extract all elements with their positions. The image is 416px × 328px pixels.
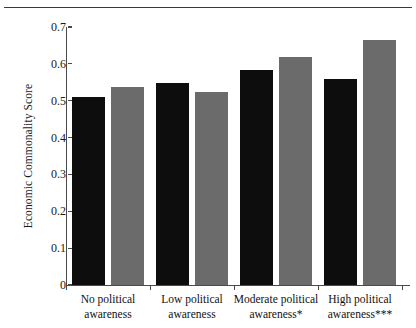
x-label-line-2: awareness (144, 307, 240, 322)
y-tick-label: 0.5 (32, 95, 66, 107)
x-tick-mark (150, 285, 151, 290)
x-label-line-1: No political (60, 292, 156, 307)
y-tick-text: 0.1 (51, 241, 66, 255)
y-tick-label: 0.4 (32, 132, 66, 144)
y-tick-label: 0.3 (32, 168, 66, 180)
y-tick-text: 0.3 (51, 167, 66, 181)
x-axis-category-label: Moderate politicalawareness* (228, 292, 324, 322)
bar (156, 83, 189, 285)
x-label-line-2: awareness* (228, 307, 324, 322)
bar (363, 40, 396, 285)
x-label-line-1: Low political (144, 292, 240, 307)
bar-series-container (66, 27, 410, 285)
x-label-line-1: High political (312, 292, 408, 307)
x-tick-mark (402, 285, 403, 290)
x-axis-line (66, 285, 410, 286)
bar (111, 87, 144, 285)
x-tick-mark (234, 285, 235, 290)
x-label-line-2: awareness (60, 307, 156, 322)
y-tick-text: 0.2 (51, 204, 66, 218)
x-label-line-2: awareness*** (312, 307, 408, 322)
bar (279, 57, 312, 285)
bar (324, 79, 357, 285)
y-tick-label: 0.2 (32, 205, 66, 217)
plot-area: 00.10.20.30.40.50.60.7 (66, 27, 410, 285)
x-tick-mark (66, 285, 67, 290)
y-tick-text: 0.7 (51, 20, 66, 34)
y-tick-text: 0.4 (51, 131, 66, 145)
bar (195, 92, 228, 286)
x-axis-labels: No politicalawarenessLow politicalawaren… (60, 292, 416, 328)
y-tick-label: 0.1 (32, 242, 66, 254)
y-tick-label: 0.6 (32, 58, 66, 70)
bar (72, 97, 105, 285)
x-axis-category-label: Low politicalawareness (144, 292, 240, 322)
y-tick-label: 0.7 (32, 21, 66, 33)
bar (240, 70, 273, 285)
x-axis-category-label: No politicalawareness (60, 292, 156, 322)
y-tick-label: 0 (32, 279, 66, 291)
top-rule-divider (4, 7, 412, 8)
x-tick-mark (318, 285, 319, 290)
bar-chart-figure: Economic Commonality Score 00.10.20.30.4… (0, 0, 416, 328)
x-axis-category-label: High politicalawareness*** (312, 292, 408, 322)
x-label-line-1: Moderate political (228, 292, 324, 307)
y-tick-text: 0.6 (51, 57, 66, 71)
y-tick-text: 0.5 (51, 94, 66, 108)
